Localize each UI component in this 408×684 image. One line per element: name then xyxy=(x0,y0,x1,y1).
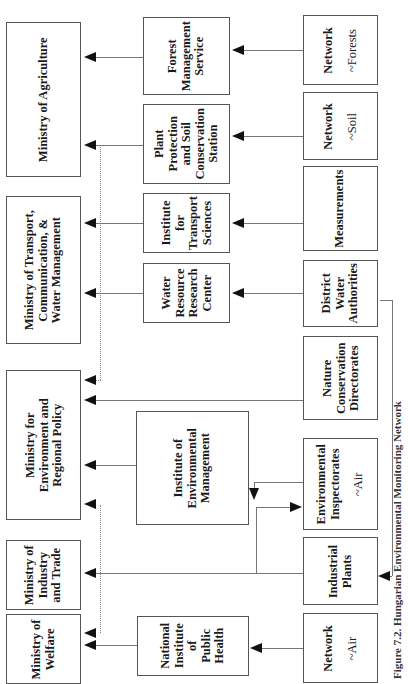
connector-inspect-to-mgmt xyxy=(254,482,303,483)
connector-air-to-health xyxy=(262,648,303,649)
arrow-to-agriculture-1 xyxy=(84,52,96,62)
national-institute-public-health-label: National Institute of Public Health xyxy=(159,623,227,669)
ministry-environment-label: Ministry for Environment and Regional Po… xyxy=(23,398,64,492)
arrow-to-welfare xyxy=(84,640,96,650)
ministry-welfare-label: Ministry of Welfare xyxy=(30,619,57,679)
ministry-agriculture-label: Ministry of Agriculture xyxy=(37,37,51,162)
network-forests-title: Network xyxy=(321,27,335,74)
dotted-env-to-welfare xyxy=(100,505,101,633)
connector-health-to-welfare xyxy=(96,645,137,646)
connector-plant-to-agri xyxy=(96,145,143,146)
arrow-to-transport-1 xyxy=(84,218,96,228)
environmental-inspectorates-sub: ~Air xyxy=(352,444,366,524)
arrow-to-transport-inst xyxy=(232,218,244,228)
institute-transport-sciences-box: Institute for Transport Sciences xyxy=(143,193,230,253)
network-soil-label: Network ~Soil xyxy=(322,103,359,150)
ministry-agriculture-box: Ministry of Agriculture xyxy=(6,22,81,177)
environmental-inspectorates-title: Environmental Inspectorates xyxy=(314,444,342,524)
plant-protection-station-label: Plant Protection and Soil Conservation S… xyxy=(153,108,221,180)
environmental-inspectorates-label: Environmental Inspectorates ~Air xyxy=(315,444,366,524)
arrow-to-industry xyxy=(84,568,96,578)
network-forests-box: Network ~Forests xyxy=(303,15,378,85)
environmental-inspectorates-box: Environmental Inspectorates ~Air xyxy=(303,438,378,530)
nature-conservation-directorates-box: Nature Conservation Directorates xyxy=(303,336,378,420)
ministry-welfare-box: Ministry of Welfare xyxy=(6,614,81,684)
arrow-to-forest-service xyxy=(232,45,244,55)
measurements-label: Measurements xyxy=(334,169,348,247)
network-soil-box: Network ~Soil xyxy=(303,92,378,160)
connector-nature-to-env xyxy=(96,400,303,401)
arrow-to-env-1 xyxy=(84,395,96,405)
ministry-environment-box: Ministry for Environment and Regional Po… xyxy=(6,370,81,520)
connector-water-center xyxy=(96,293,143,294)
forest-management-service-box: Forest Management Service xyxy=(143,17,230,95)
arrow-to-transport-2 xyxy=(84,288,96,298)
connector-water-auth-top xyxy=(380,300,392,301)
connector-ind-to-inspect-h xyxy=(256,507,291,508)
national-institute-public-health-box: National Institute of Public Health xyxy=(137,616,249,676)
industrial-plants-label: Industrial Plants xyxy=(327,544,354,598)
connector-ind-to-industry xyxy=(96,573,303,574)
connector-env-mgmt-to-env xyxy=(96,465,136,466)
network-forests-label: Network ~Forests xyxy=(322,27,359,74)
network-air-sub: ~Air xyxy=(345,625,359,672)
ministry-transport-box: Ministry of Transport, Communication, & … xyxy=(6,196,81,344)
dotted-plant-to-env xyxy=(100,145,101,380)
district-water-authorities-label: District Water Authorities xyxy=(320,263,361,323)
forest-management-service-label: Forest Management Service xyxy=(166,21,207,91)
ministry-industry-box: Ministry of Industry and Trade xyxy=(6,540,81,610)
connector-water-authorities xyxy=(244,293,303,294)
dotted-plant-to-env-h xyxy=(96,380,101,381)
network-air-label: Network ~Air xyxy=(322,625,359,672)
network-soil-sub: ~Soil xyxy=(345,103,359,150)
institute-env-management-box: Institute of Environmental Management xyxy=(136,411,249,525)
connector-measurements xyxy=(244,223,303,224)
plant-protection-station-box: Plant Protection and Soil Conservation S… xyxy=(143,104,230,184)
arrow-to-env-2 xyxy=(84,460,96,470)
network-air-box: Network ~Air xyxy=(303,613,378,683)
network-air-title: Network xyxy=(321,625,335,672)
institute-transport-sciences-label: Institute for Transport Sciences xyxy=(160,196,214,250)
district-water-authorities-box: District Water Authorities xyxy=(303,260,378,327)
connector-net-soil xyxy=(244,136,303,137)
arrow-dotted-to-env-3 xyxy=(84,499,96,509)
connector-transport-inst xyxy=(96,223,143,224)
arrow-to-public-health xyxy=(250,643,262,653)
institute-env-management-label: Institute of Environmental Management xyxy=(172,428,213,508)
water-resource-research-center-box: Water Resource Research Center xyxy=(143,263,230,323)
connector-forest-to-agri xyxy=(96,57,143,58)
nature-conservation-directorates-label: Nature Conservation Directorates xyxy=(320,342,361,414)
water-resource-research-center-label: Water Resource Research Center xyxy=(160,268,214,317)
arrow-dotted-to-env xyxy=(84,375,96,385)
arrow-to-plant-station xyxy=(232,131,244,141)
arrow-to-water-center xyxy=(232,288,244,298)
industrial-plants-box: Industrial Plants xyxy=(303,537,378,605)
ministry-industry-label: Ministry of Industry and Trade xyxy=(23,545,64,605)
network-soil-title: Network xyxy=(321,103,335,150)
arrow-to-agriculture-2 xyxy=(84,140,96,150)
connector-ind-to-inspect-vert xyxy=(256,507,257,573)
figure-caption: Figure 7.2. Hungarian Environmental Moni… xyxy=(386,400,408,679)
network-forests-sub: ~Forests xyxy=(345,27,359,74)
arrow-to-env-mgmt xyxy=(249,488,259,500)
arrow-to-inspectorates xyxy=(290,502,302,512)
figure-caption-text: Figure 7.2. Hungarian Environmental Moni… xyxy=(391,401,403,679)
connector-net-forests xyxy=(244,50,303,51)
measurements-box: Measurements xyxy=(303,166,378,251)
ministry-transport-label: Ministry of Transport, Communication, & … xyxy=(23,210,64,330)
arrow-dotted-to-welfare xyxy=(84,628,96,638)
